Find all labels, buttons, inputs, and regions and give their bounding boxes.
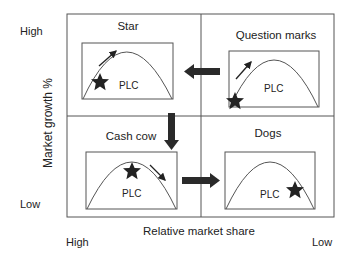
trend-arrow-icon bbox=[236, 62, 251, 79]
trend-arrow-icon bbox=[99, 51, 116, 66]
quadrant-title-cash-cow: Cash cow bbox=[98, 130, 164, 142]
y-axis-low-label: Low bbox=[20, 198, 40, 210]
quadrant-title-question-marks: Question marks bbox=[226, 29, 326, 41]
x-axis-high-label: High bbox=[66, 236, 89, 248]
cash-cow-plc-box bbox=[86, 152, 177, 209]
dogs-plc-box bbox=[225, 152, 315, 209]
star-marker-icon bbox=[123, 162, 141, 179]
plc-label-star: PLC bbox=[119, 80, 138, 91]
star-marker-icon bbox=[91, 73, 109, 90]
plc-label-cash-cow: PLC bbox=[122, 188, 141, 199]
y-axis-title: Market growth % bbox=[41, 78, 55, 168]
flow-arrow-left-icon bbox=[184, 64, 220, 79]
plc-label-dogs: PLC bbox=[260, 189, 279, 200]
quadrant-title-dogs: Dogs bbox=[246, 127, 290, 139]
flow-arrow-down-icon bbox=[164, 113, 179, 150]
plc-label-question-marks: PLC bbox=[264, 83, 283, 94]
x-axis-title: Relative market share bbox=[143, 225, 255, 237]
quadrant-title-star: Star bbox=[110, 20, 146, 32]
y-axis-high-label: High bbox=[20, 25, 43, 37]
x-axis-low-label: Low bbox=[312, 236, 332, 248]
star-marker-icon bbox=[286, 181, 304, 198]
question-marks-plc-box bbox=[226, 51, 319, 109]
